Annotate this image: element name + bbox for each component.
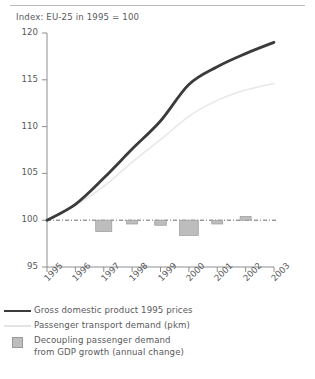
- y-tick-label: 95: [12, 261, 38, 271]
- y-tick-label: 105: [12, 167, 38, 177]
- legend-label-decoupling: Decoupling passenger demand from GDP gro…: [34, 335, 184, 358]
- legend-label-gdp: Gross domestic product 1995 prices: [34, 305, 193, 317]
- legend-faint-line-icon: [0, 320, 34, 332]
- legend-item-gdp: Gross domestic product 1995 prices: [0, 305, 315, 317]
- gdp-line: [47, 42, 274, 220]
- chart-plot-area: 95100105110115120 1995199619971998199920…: [0, 0, 315, 300]
- y-tick-label: 120: [12, 27, 38, 37]
- y-axis-ticks: [42, 33, 47, 267]
- legend-label-passenger-demand: Passenger transport demand (pkm): [34, 320, 190, 332]
- legend-solid-line-icon: [0, 305, 34, 317]
- y-tick-label: 110: [12, 121, 38, 131]
- legend-gray-square-icon: [0, 335, 34, 348]
- legend-item-decoupling: Decoupling passenger demand from GDP gro…: [0, 335, 315, 358]
- y-tick-label: 115: [12, 74, 38, 84]
- chart-svg: [0, 0, 315, 300]
- legend-item-passenger-demand: Passenger transport demand (pkm): [0, 320, 315, 332]
- chart-legend: Gross domestic product 1995 prices Passe…: [0, 305, 315, 361]
- decoupling-bars: [96, 216, 251, 235]
- y-tick-label: 100: [12, 214, 38, 224]
